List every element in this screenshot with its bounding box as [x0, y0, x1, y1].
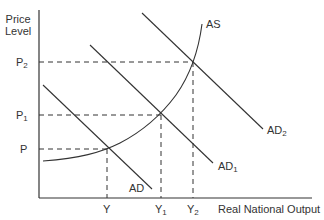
p1-label: P1 [16, 109, 28, 125]
y-label: Y [103, 203, 110, 219]
y2-label: Y2 [187, 203, 199, 219]
y1-label: Y1 [155, 203, 167, 219]
p1-label-sub: 1 [23, 114, 27, 123]
x-axis-label: Real National Output [218, 203, 320, 215]
y-axis-label-line1: Price [5, 13, 31, 25]
ad2-label-sub: 2 [282, 129, 286, 138]
y-label-base: Y [103, 203, 110, 215]
ad-label-base: AD [129, 182, 144, 194]
p-label-base: P [20, 143, 27, 155]
y-axis-label: Price Level [5, 13, 31, 37]
ad2-label-base: AD [267, 124, 282, 136]
ad1-label-base: AD [218, 160, 233, 172]
as-curve [43, 24, 202, 161]
ad1-label-sub: 1 [233, 165, 237, 174]
y1-label-sub: 1 [162, 208, 166, 217]
as-label: AS [206, 18, 221, 30]
p2-label-sub: 2 [23, 61, 27, 70]
y-axis-label-line2: Level [5, 25, 31, 37]
ad1-label: AD1 [218, 160, 238, 176]
y2-label-sub: 2 [194, 208, 198, 217]
as-label-base: AS [206, 18, 221, 30]
ad-label: AD [129, 182, 144, 198]
ad-as-diagram [0, 0, 324, 220]
ad2-label: AD2 [267, 124, 287, 140]
ad-curve [43, 85, 152, 189]
p-label: P [20, 143, 27, 159]
p2-label: P2 [16, 56, 28, 72]
